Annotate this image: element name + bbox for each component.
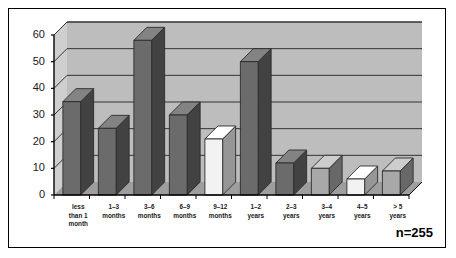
x-label-line: month <box>55 220 101 229</box>
bar-2 <box>98 115 129 195</box>
bar-3 <box>134 27 165 195</box>
y-tick-label-50: 50 <box>19 56 45 67</box>
y-tick-label-10: 10 <box>19 162 45 173</box>
x-label-line: > 5 <box>375 203 421 212</box>
bar-chart: 0102030405060 lessthan 1month1–3months3–… <box>9 9 447 249</box>
sample-size-annotation: n=255 <box>396 225 433 240</box>
bar-4 <box>169 102 200 195</box>
bar-1 <box>63 89 94 195</box>
bar-6 <box>240 49 271 195</box>
y-tick-label-20: 20 <box>19 136 45 147</box>
y-tick-label-40: 40 <box>19 82 45 93</box>
x-label-10: > 5years <box>375 203 421 220</box>
y-tick-label-30: 30 <box>19 109 45 120</box>
y-tick-label-0: 0 <box>19 189 45 200</box>
y-tick-label-60: 60 <box>19 29 45 40</box>
bar-5 <box>205 126 236 195</box>
chart-frame: 0102030405060 lessthan 1month1–3months3–… <box>8 8 446 248</box>
x-label-line: years <box>375 212 421 221</box>
